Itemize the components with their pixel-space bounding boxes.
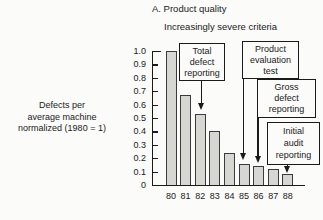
y-tick-label: 0 [122,181,146,190]
annotation-line: defect [259,93,314,104]
annotation-arrow-line [257,118,258,157]
annotation-arrow-line [243,79,244,155]
chart-title: A. Product quality [152,3,226,14]
annotation-line: defect [181,57,223,68]
y-tick [153,131,158,132]
product-quality-figure: A. Product quality Increasingly severe c… [0,0,323,220]
bar-87 [268,169,279,185]
y-tick-label: 0.7 [122,87,146,96]
annotation-line: reporting [259,104,314,115]
annotation-line: reporting [181,68,223,79]
chart-subtitle: Increasingly severe criteria [164,21,277,32]
y-tick-label: 0.1 [122,168,146,177]
y-tick [153,91,158,92]
y-tick-label: 0.6 [122,101,146,110]
y-tick-label: 0.4 [122,127,146,136]
y-axis-label-line: normalized (1980 = 1) [0,123,124,135]
y-axis-label: Defects per average machine normalized (… [0,100,124,135]
annotation-product-evaluation-test: Product evaluation test [242,41,299,79]
y-tick [153,185,158,186]
annotation-line: Product [244,44,297,55]
y-axis-label-line: average machine [0,112,124,124]
y-tick-label: 0.2 [122,154,146,163]
y-tick [153,64,158,65]
annotation-gross-defect-reporting: Gross defect reporting [257,79,316,118]
annotation-total-defect-reporting: Total defect reporting [179,43,225,81]
y-tick [153,145,158,146]
y-tick-label: 1.0 [122,47,146,56]
annotation-line: test [244,66,297,77]
y-tick [153,51,161,52]
y-tick [153,158,158,159]
annotation-arrow-line [201,81,202,104]
y-tick [153,118,158,119]
annotation-line: Total [181,46,223,57]
annotation-line: evaluation [244,55,297,66]
annotation-line: Initial [269,125,318,137]
annotation-arrow-head [198,103,204,110]
bar-83 [209,131,220,185]
y-tick-label: 0.9 [122,60,146,69]
y-tick [153,105,158,106]
y-tick-label: 0.3 [122,141,146,150]
annotation-line: audit [269,137,318,149]
x-axis [152,185,306,186]
annotation-line: Gross [259,82,314,93]
bar-85 [239,164,250,185]
bar-84 [224,153,235,185]
y-tick-label: 0.5 [122,114,146,123]
annotation-initial-audit-reporting: Initial audit reporting [267,122,320,165]
annotation-line: reporting [269,149,318,161]
x-tick-label: 88 [279,192,297,201]
bar-86 [253,166,264,185]
bar-81 [180,95,191,185]
annotation-arrow-head [240,153,246,160]
bar-80 [166,51,177,185]
annotation-arrow-head [284,166,290,173]
bar-82 [195,114,206,185]
y-tick [153,78,158,79]
y-tick [153,172,158,173]
y-tick-label: 0.8 [122,74,146,83]
bar-88 [282,174,293,185]
annotation-arrow-head [255,156,261,163]
y-axis-label-line: Defects per [0,100,124,112]
